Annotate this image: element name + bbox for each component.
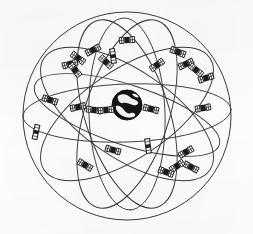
satellite-icon	[32, 124, 40, 139]
satellite-icon	[85, 44, 101, 57]
satellite-icon	[195, 104, 211, 113]
satellite-sat-17	[195, 104, 211, 113]
earth-globe	[112, 90, 142, 120]
satellite-icon	[183, 161, 199, 174]
satellite-sat-13	[70, 102, 86, 111]
satellite-icon	[188, 63, 204, 78]
satellite-icon	[170, 46, 186, 58]
satellite-constellation-diagram	[0, 0, 253, 234]
satellite-sat-05	[68, 62, 82, 78]
satellite-icon	[68, 62, 82, 78]
satellite-sat-18	[32, 124, 40, 139]
satellite-sat-15	[98, 106, 114, 114]
satellite-sat-16	[143, 104, 159, 114]
satellite-icon	[98, 106, 114, 114]
satellite-icon	[77, 158, 93, 171]
satellite-sat-22	[183, 161, 199, 174]
satellite-icon	[143, 104, 159, 114]
figure-canvas: — — —— — —— —— —	[0, 0, 253, 234]
satellite-sat-01	[119, 36, 135, 43]
satellite-icon	[70, 102, 86, 111]
satellite-icon	[119, 36, 135, 43]
satellite-icon	[110, 49, 117, 64]
satellite-sat-10	[188, 63, 204, 78]
earth-globe-group	[112, 90, 142, 120]
satellite-sat-25	[77, 158, 93, 171]
satellite-sat-08	[170, 46, 186, 58]
satellite-sat-02	[85, 44, 101, 57]
satellite-sat-26	[110, 49, 117, 64]
